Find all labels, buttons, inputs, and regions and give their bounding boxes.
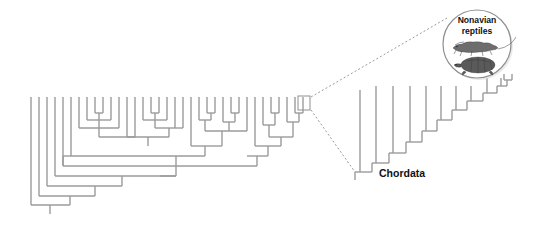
dashed-leader-lower-icon — [311, 110, 355, 172]
figure-root: Chordata Nonavian reptiles — [0, 0, 535, 228]
main-tree-backbone — [31, 156, 257, 214]
main-tree-group — [31, 97, 303, 214]
dashed-leader-upper-icon — [311, 18, 447, 97]
highlight-box-icon[interactable] — [298, 96, 310, 110]
chordata-label: Chordata — [379, 167, 425, 179]
inset-label-line2: reptiles — [462, 26, 493, 36]
nonavian-reptiles-inset[interactable]: Nonavian reptiles — [443, 10, 516, 80]
expanded-tree-group — [355, 74, 512, 180]
cladogram-figure: Chordata Nonavian reptiles — [0, 0, 535, 228]
main-tree-clade-c — [148, 113, 247, 166]
inset-label-line1: Nonavian — [458, 15, 497, 25]
main-tree-tips — [31, 97, 303, 205]
